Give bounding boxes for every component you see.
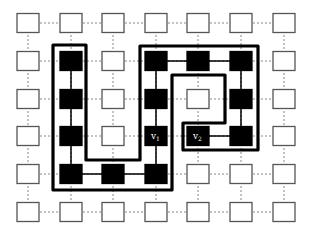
empty-node: [273, 14, 295, 33]
empty-node: [273, 165, 295, 184]
filled-node: [187, 52, 209, 71]
empty-node: [273, 52, 295, 71]
empty-node: [273, 203, 295, 222]
empty-node: [17, 52, 39, 71]
empty-node: [273, 127, 295, 146]
filled-node: [145, 52, 167, 71]
empty-node: [60, 14, 82, 33]
filled-node: [230, 90, 252, 109]
filled-node: [102, 165, 124, 184]
empty-node: [102, 127, 124, 146]
empty-node: [17, 165, 39, 184]
grid-graph-diagram: v1v2: [0, 0, 310, 235]
filled-node: [60, 90, 82, 109]
empty-node: [102, 14, 124, 33]
empty-node: [102, 203, 124, 222]
empty-node: [145, 14, 167, 33]
filled-node: [230, 52, 252, 71]
empty-node: [230, 203, 252, 222]
empty-node: [17, 14, 39, 33]
empty-node: [273, 90, 295, 109]
empty-node: [230, 14, 252, 33]
filled-node: [60, 52, 82, 71]
empty-node: [17, 203, 39, 222]
filled-node: [230, 127, 252, 146]
filled-node: [60, 127, 82, 146]
empty-node: [187, 203, 209, 222]
empty-node: [17, 90, 39, 109]
filled-node: [145, 90, 167, 109]
empty-node: [230, 165, 252, 184]
empty-node: [187, 14, 209, 33]
filled-node: [145, 165, 167, 184]
empty-node: [17, 127, 39, 146]
empty-node: [187, 165, 209, 184]
filled-node: [60, 165, 82, 184]
empty-node: [187, 90, 209, 109]
empty-node: [102, 90, 124, 109]
empty-node: [60, 203, 82, 222]
empty-node: [102, 52, 124, 71]
empty-node: [145, 203, 167, 222]
solid-path-edges: [71, 61, 241, 174]
